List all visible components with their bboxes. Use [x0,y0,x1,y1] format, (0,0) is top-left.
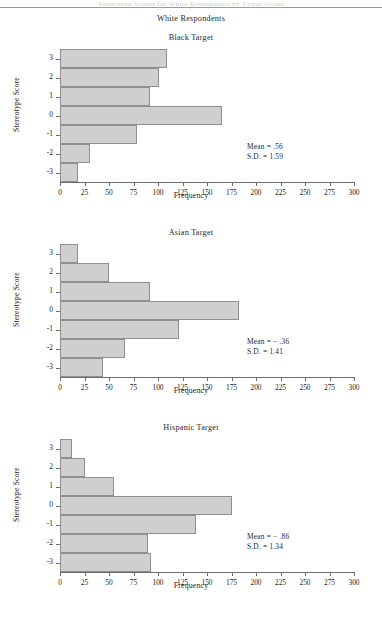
y-axis-tick [56,292,60,293]
y-axis-tick [56,311,60,312]
running-head-text: Stereotype Scores for White Respondents … [0,0,382,6]
sd-label: S.D. = 1.34 [247,542,289,552]
bar [60,263,109,282]
mean-label: Mean = − .36 [247,337,289,347]
y-axis-tick-label: 0 [31,110,53,119]
x-axis-label: Frequency [0,581,382,590]
x-axis-tick [207,182,208,186]
bar [60,244,78,263]
bar [60,439,72,458]
y-axis-tick-label: -2 [31,538,53,547]
y-axis-tick-label: -2 [31,343,53,352]
x-axis-tick [232,377,233,381]
bar [60,534,148,553]
x-axis-tick [281,572,282,576]
bar [60,458,85,477]
x-axis-tick [134,182,135,186]
plot-area-wrapper: Stereotype Score 3210-1-2-30255075100125… [0,239,382,399]
x-axis-tick [183,572,184,576]
x-axis-label: Frequency [0,386,382,395]
y-axis-tick [56,330,60,331]
y-axis-tick [56,544,60,545]
stats-annotation: Mean = − .36 S.D. = 1.41 [247,337,289,356]
bar [60,282,150,301]
y-axis-tick-label: 1 [31,91,53,100]
x-axis-tick [232,182,233,186]
x-axis-tick [60,572,61,576]
stats-annotation: Mean = .56 S.D. = 1.59 [247,142,283,161]
figure-black-target: Black Target Stereotype Score 3210-1-2-3… [0,33,382,204]
bar [60,49,167,68]
x-axis-tick [305,377,306,381]
bar [60,144,90,163]
y-axis-label: Stereotype Score [12,60,21,150]
plot-asian-target: 3210-1-2-3025507510012515017520022525027… [60,244,354,377]
mean-label: Mean = .56 [247,142,283,152]
y-axis-tick-label: -3 [31,362,53,371]
x-axis-tick [134,377,135,381]
x-axis-tick [354,182,355,186]
bar [60,87,150,106]
x-axis-tick [183,377,184,381]
y-axis-tick [56,97,60,98]
y-axis-tick [56,135,60,136]
y-axis-tick-label: 0 [31,500,53,509]
y-axis-tick-label: -1 [31,129,53,138]
y-axis-tick-label: 1 [31,286,53,295]
y-axis-tick-label: -1 [31,324,53,333]
x-axis-tick [158,182,159,186]
y-axis-tick [56,59,60,60]
x-axis-tick [354,377,355,381]
y-axis-tick-label: 3 [31,53,53,62]
x-axis-tick [85,377,86,381]
sd-label: S.D. = 1.59 [247,152,283,162]
y-axis-tick [56,525,60,526]
y-axis-tick-label: 2 [31,72,53,81]
x-axis-tick [60,182,61,186]
plot-hispanic-target: 3210-1-2-3025507510012515017520022525027… [60,439,354,572]
plot-area-wrapper: Stereotype Score 3210-1-2-30255075100125… [0,44,382,204]
y-axis-tick-label: -3 [31,557,53,566]
plot-area-wrapper: Stereotype Score 3210-1-2-30255075100125… [0,434,382,594]
x-axis-tick [134,572,135,576]
bar [60,477,114,496]
bar [60,125,137,144]
y-axis-tick [56,449,60,450]
x-axis-tick [256,377,257,381]
x-axis-tick [158,572,159,576]
running-head-rule [0,7,382,8]
figure-hispanic-target: Hispanic Target Stereotype Score 3210-1-… [0,423,382,594]
y-axis-tick-label: 1 [31,481,53,490]
y-axis-tick [56,78,60,79]
x-axis-tick [158,377,159,381]
x-axis-tick [207,377,208,381]
x-axis-tick [256,182,257,186]
plot-black-target: 3210-1-2-3025507510012515017520022525027… [60,49,354,182]
x-axis-tick [256,572,257,576]
stats-annotation: Mean = − .86 S.D. = 1.34 [247,532,289,551]
figure-asian-target: Asian Target Stereotype Score 3210-1-2-3… [0,228,382,399]
bar [60,515,196,534]
y-axis-tick [56,468,60,469]
x-axis-tick [109,377,110,381]
bar [60,68,159,87]
y-axis-tick [56,116,60,117]
x-axis-tick [330,377,331,381]
y-axis-tick-label: 0 [31,305,53,314]
page-title: White Respondents [0,14,382,23]
x-axis-tick [354,572,355,576]
y-axis-tick-label: -2 [31,148,53,157]
x-axis-tick [109,572,110,576]
x-axis-tick [85,572,86,576]
mean-label: Mean = − .86 [247,532,289,542]
bar [60,358,103,377]
y-axis-tick [56,173,60,174]
x-axis-tick [330,572,331,576]
x-axis-tick [207,572,208,576]
bar [60,339,125,358]
y-axis-tick-label: -3 [31,167,53,176]
x-axis-tick [281,377,282,381]
sd-label: S.D. = 1.41 [247,347,289,357]
x-axis-tick [305,572,306,576]
x-axis-tick [85,182,86,186]
